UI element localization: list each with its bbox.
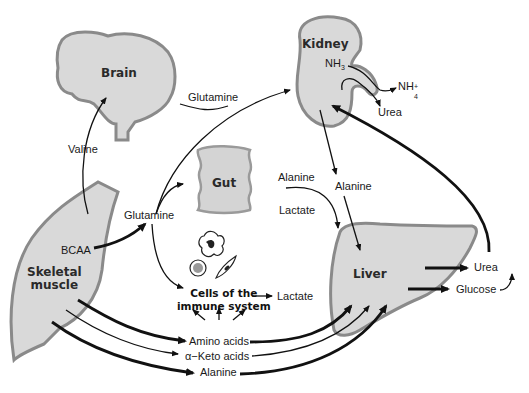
nh3-text: NH [325, 57, 341, 69]
arrow-glutamine-kidney [180, 104, 228, 110]
glucose-label: Glucose [456, 284, 496, 295]
nh4-superscript: + [414, 83, 418, 90]
bcaa-label: BCAA [61, 245, 91, 256]
alanine-kidney-label: Alanine [335, 181, 372, 192]
keto-acids-label: α−Keto acids [185, 351, 249, 362]
nh3-subscript: 3 [341, 64, 345, 71]
immune-label-line2: immune system [177, 300, 271, 312]
skeletal-muscle-label: Skeletal muscle [27, 266, 82, 291]
brain-label: Brain [101, 67, 137, 80]
urea-liver-label: Urea [474, 262, 498, 273]
alanine-bottom-label: Alanine [200, 367, 237, 378]
arrow-muscle-aa [78, 300, 185, 341]
arrow-glucose-out [500, 274, 512, 290]
gut-label: Gut [212, 177, 236, 190]
skeletal-muscle-label-line2: muscle [31, 278, 79, 292]
metabolism-diagram: Brain Kidney Gut Liver Skeletal muscle C… [0, 0, 529, 393]
glutamine-top-label: Glutamine [188, 92, 238, 103]
nh4-text: NH [398, 80, 414, 92]
lactate-gut-label: Lactate [279, 205, 315, 216]
nh3-label: NH3 [325, 58, 345, 71]
liver-label: Liver [353, 268, 387, 281]
arrow-glutamine-immune [152, 224, 183, 288]
nh4-label: NH+4 [398, 81, 420, 92]
immune-cells-icon [190, 231, 236, 278]
immune-label-line1: Cells of the [190, 287, 257, 299]
urea-kidney-label: Urea [378, 107, 402, 118]
brain-shape [57, 32, 175, 140]
kidney-shape [297, 17, 377, 126]
lactate-immune-label: Lactate [277, 291, 313, 302]
diagram-graphics [0, 0, 529, 393]
immune-system-label: Cells of the immune system [177, 287, 271, 313]
nh4-subscript: 4 [414, 93, 418, 100]
alanine-gut-label: Alanine [278, 172, 315, 183]
amino-acids-label: Amino acids [189, 336, 249, 347]
arrow-muscle-keto [66, 310, 178, 354]
glutamine-mid-label: Glutamine [124, 210, 174, 221]
arrow-muscle-alanine [52, 322, 193, 373]
kidney-label: Kidney [302, 38, 349, 51]
valine-label: Valine [68, 144, 98, 155]
